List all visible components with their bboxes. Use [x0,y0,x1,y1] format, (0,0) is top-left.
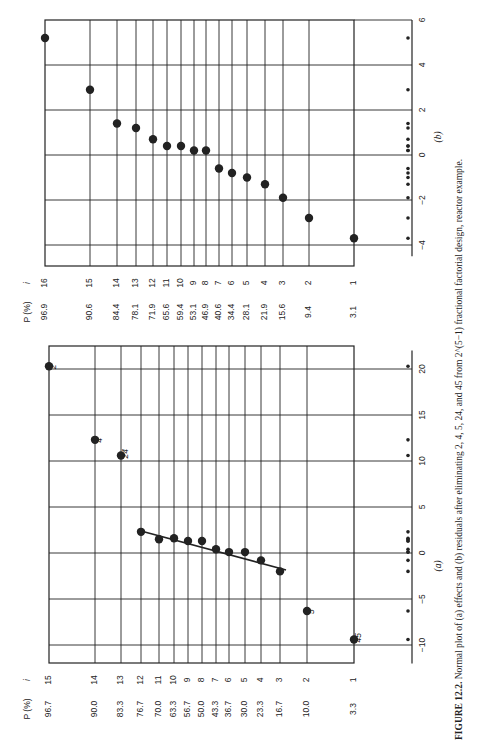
i-label: 1 [348,280,358,285]
p-label: 28.1 [241,303,251,320]
data-point [305,214,313,222]
data-point [149,135,157,143]
i-label: 7 [210,677,220,682]
i-label: 5 [239,677,249,682]
x-tick-label: 0 [417,152,427,157]
point-label: 45 [353,633,363,643]
x-tick-label: −10 [417,638,427,653]
x-tick-label: 4 [417,62,427,67]
i-label: 12 [135,675,145,685]
rug-dot [406,176,410,180]
rug-dot [406,548,410,552]
data-point [215,164,223,172]
figure-12-2: 4552442−10−505101520(a)13.3210.0316.7423… [0,0,477,746]
i-label: 8 [196,677,206,682]
p-header: P (%) [22,698,32,719]
i-label: 4 [255,677,265,682]
rug-dot [406,216,410,220]
p-label: 16.7 [274,700,284,717]
p-label: 3.3 [348,703,358,715]
p-label: 34.4 [226,303,236,320]
i-label: 2 [301,677,311,682]
i-label: 14 [111,278,121,288]
data-point [279,194,287,202]
data-point [243,173,251,181]
p-label: 43.3 [210,700,220,717]
x-tick-label: −4 [417,240,427,250]
x-tick-label: −5 [417,594,427,604]
i-label: 2 [303,280,313,285]
point-label: 2 [48,364,58,370]
p-label: 15.6 [277,303,287,320]
plot-frame [45,20,354,266]
p-label: 63.3 [168,700,178,717]
i-label: 16 [39,278,49,288]
p-label: 76.7 [135,700,145,717]
i-label: 5 [241,280,251,285]
p-label: 90.6 [84,303,94,320]
p-label: 71.9 [147,303,157,320]
rug-dot [406,454,410,458]
i-label: 6 [223,677,233,682]
p-label: 78.1 [130,303,140,320]
i-label: 1 [348,677,358,682]
data-point [228,169,236,177]
data-point [212,545,220,553]
caption-label: FIGURE 12.2. [454,679,464,740]
i-label: 12 [147,278,157,288]
x-tick-label: 15 [417,410,427,420]
i-label: 10 [175,278,185,288]
p-label: 90.0 [89,700,99,717]
point-label: 24 [120,449,130,460]
i-label: 14 [89,675,99,685]
data-point [202,146,210,154]
rug-dot [406,149,410,153]
p-label: 53.1 [188,303,198,320]
data-point [155,535,163,543]
p-label: 84.4 [111,303,121,320]
rug-dot [406,36,410,40]
x-tick-label: 5 [417,504,427,509]
panel-a: 4552442 [45,346,412,663]
data-point [177,142,185,150]
p-label: 70.0 [153,700,163,717]
p-label: 10.0 [301,700,311,717]
data-point [184,537,192,545]
caption-text: Normal plot of (a) effects and (b) resid… [454,159,465,679]
data-point [261,180,269,188]
data-point [257,556,265,564]
p-label: 3.1 [348,306,358,318]
p-label: 36.7 [223,700,233,717]
data-point [132,124,140,132]
i-label: 13 [130,278,140,288]
rug-dot [406,126,410,130]
rug-dot [406,122,410,126]
i-label: 9 [188,280,198,285]
data-point [163,142,171,150]
data-point [241,548,249,556]
i-label: 7 [213,280,223,285]
rug-dot [406,609,410,613]
x-tick-label: 10 [417,456,427,466]
data-point [276,567,284,575]
rug-dot [406,438,410,442]
i-header: i [22,281,32,284]
p-label: 21.9 [259,303,269,320]
rug-dot [406,364,410,368]
i-label: 15 [84,278,94,288]
rug-dot [406,137,410,141]
data-point [113,119,121,127]
p-label: 23.3 [255,700,265,717]
p-label: 83.3 [115,700,125,717]
rug-dot [406,167,410,171]
panel-label: (b) [433,131,444,142]
rug-dot [406,537,410,541]
i-label: 11 [161,278,171,287]
rug-dot [406,570,410,574]
p-label: 30.0 [239,700,249,717]
rug-dot [406,171,410,175]
data-point [350,234,358,242]
panel-b [41,20,412,266]
panel-label: (a) [433,560,444,571]
i-label: 4 [259,280,269,285]
